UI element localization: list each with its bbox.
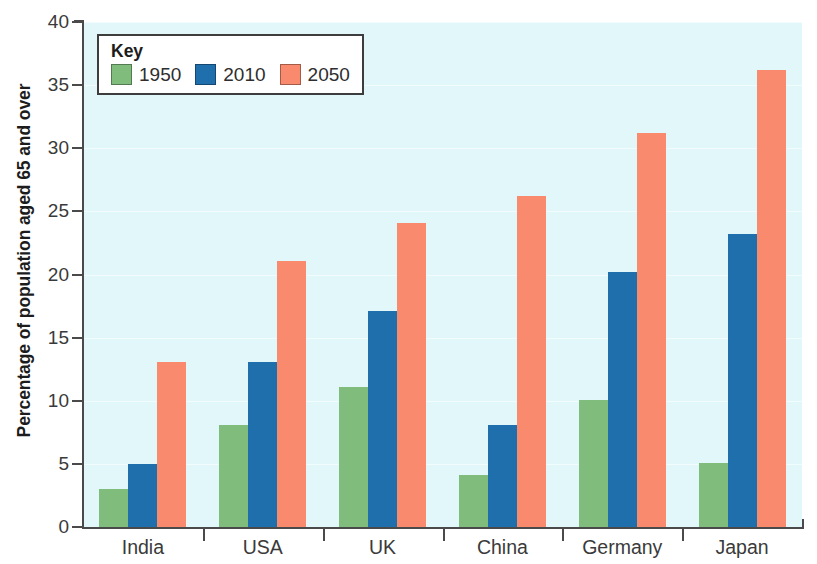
y-tick-label: 40	[9, 11, 69, 33]
x-tick-label-china: China	[477, 536, 528, 559]
gridline	[83, 464, 802, 465]
bar-usa-2050	[277, 261, 306, 527]
bar-china-1950	[459, 475, 488, 527]
bar-chart: Percentage of population aged 65 and ove…	[0, 0, 817, 564]
bar-japan-2010	[728, 234, 757, 527]
bar-uk-2010	[368, 311, 397, 527]
y-tick-mark	[72, 526, 83, 528]
y-tick-mark	[72, 400, 83, 402]
bar-japan-1950	[699, 463, 728, 527]
bar-usa-2010	[248, 362, 277, 527]
y-tick-mark	[72, 337, 83, 339]
y-tick-mark	[72, 210, 83, 212]
bar-usa-1950	[219, 425, 248, 527]
legend: Key 195020102050	[97, 34, 364, 95]
gridline	[83, 275, 802, 276]
legend-title: Key	[111, 42, 350, 61]
y-tick-mark	[72, 147, 83, 149]
legend-swatch-icon	[195, 64, 216, 85]
bar-india-1950	[99, 489, 128, 527]
bar-germany-2010	[608, 272, 637, 527]
plot-area	[83, 22, 802, 527]
legend-items: 195020102050	[111, 64, 350, 85]
gridline	[83, 211, 802, 212]
gridline	[83, 401, 802, 402]
bar-india-2010	[128, 464, 157, 527]
x-axis-right-cap	[802, 519, 804, 529]
gridline	[83, 22, 802, 23]
y-tick-label: 20	[9, 264, 69, 286]
legend-label: 2050	[308, 65, 350, 84]
y-tick-label: 35	[9, 74, 69, 96]
gridline	[83, 148, 802, 149]
x-tick-label-uk: UK	[369, 536, 396, 559]
bar-germany-1950	[579, 400, 608, 528]
y-tick-label: 0	[9, 516, 69, 538]
x-tick-mark	[562, 528, 564, 541]
bar-india-2050	[157, 362, 186, 527]
bar-germany-2050	[637, 133, 666, 527]
y-tick-label: 25	[9, 200, 69, 222]
x-tick-label-germany: Germany	[582, 536, 662, 559]
legend-swatch-icon	[111, 64, 132, 85]
y-tick-mark	[72, 84, 83, 86]
x-tick-mark	[203, 528, 205, 541]
y-tick-mark	[72, 463, 83, 465]
y-tick-label: 5	[9, 453, 69, 475]
bar-china-2010	[488, 425, 517, 527]
bar-japan-2050	[757, 70, 786, 527]
bar-uk-2050	[397, 223, 426, 527]
x-tick-label-india: India	[122, 536, 164, 559]
bar-uk-1950	[339, 387, 368, 527]
legend-item-2050: 2050	[280, 64, 350, 85]
y-tick-mark	[72, 21, 83, 23]
gridline	[83, 338, 802, 339]
legend-label: 2010	[223, 65, 265, 84]
y-tick-label: 10	[9, 390, 69, 412]
x-tick-label-japan: Japan	[716, 536, 769, 559]
x-tick-mark	[682, 528, 684, 541]
y-tick-mark	[72, 274, 83, 276]
legend-label: 1950	[139, 65, 181, 84]
x-tick-mark	[443, 528, 445, 541]
y-tick-label: 15	[9, 327, 69, 349]
legend-swatch-icon	[280, 64, 301, 85]
bar-china-2050	[517, 196, 546, 527]
x-tick-mark	[323, 528, 325, 541]
y-tick-label: 30	[9, 137, 69, 159]
legend-item-1950: 1950	[111, 64, 181, 85]
x-tick-label-usa: USA	[243, 536, 283, 559]
legend-item-2010: 2010	[195, 64, 265, 85]
